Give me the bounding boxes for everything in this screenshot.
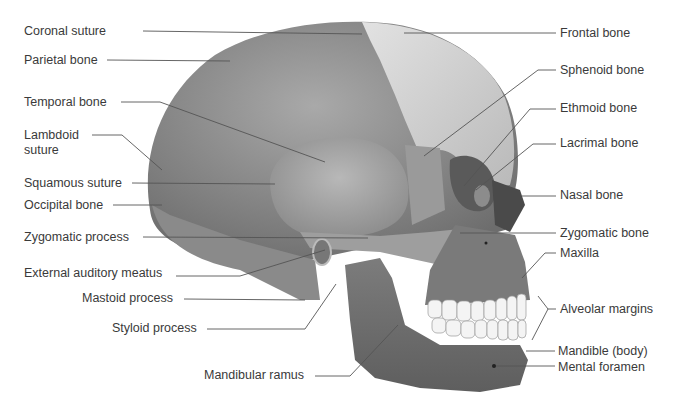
label-occipital-bone: Occipital bone <box>24 198 103 213</box>
ear-canal-shape <box>313 239 331 265</box>
label-coronal-suture: Coronal suture <box>24 24 106 39</box>
mastoid-process-leader-line <box>184 299 305 300</box>
label-mental-foramen: Mental foramen <box>558 360 645 375</box>
skull-diagram: Coronal sutureParietal boneTemporal bone… <box>0 0 676 412</box>
alveolar-margins-leader-line <box>538 296 556 309</box>
lacrimal-shape <box>474 185 490 207</box>
label-ethmoid-bone: Ethmoid bone <box>560 101 637 116</box>
label-zygomatic-process: Zygomatic process <box>24 230 129 245</box>
label-mandible-body: Mandible (body) <box>558 344 648 359</box>
label-temporal-bone: Temporal bone <box>24 95 107 110</box>
label-styloid-process: Styloid process <box>112 321 197 336</box>
label-maxilla: Maxilla <box>560 246 599 261</box>
label-lacrimal-bone: Lacrimal bone <box>560 136 639 151</box>
label-nasal-bone: Nasal bone <box>560 188 623 203</box>
alveolar-margins-2-leader-line <box>532 309 548 340</box>
label-zygomatic-bone: Zygomatic bone <box>560 226 649 241</box>
label-alveolar-margins: Alveolar margins <box>560 302 653 317</box>
label-external-auditory-meatus: External auditory meatus <box>24 266 162 281</box>
label-mastoid-process: Mastoid process <box>82 291 173 306</box>
zygomatic-foramen-dot <box>485 242 488 245</box>
label-parietal-bone: Parietal bone <box>24 53 98 68</box>
label-sphenoid-bone: Sphenoid bone <box>560 63 644 78</box>
label-frontal-bone: Frontal bone <box>560 26 630 41</box>
label-lambdoid-suture: Lambdoidsuture <box>24 128 79 158</box>
mental-foramen-dot <box>492 364 496 368</box>
label-squamous-suture: Squamous suture <box>24 176 122 191</box>
nasal-region <box>492 180 525 232</box>
temporal-bone-shape <box>270 138 408 239</box>
maxilla-leader-line <box>522 253 556 278</box>
label-mandibular-ramus: Mandibular ramus <box>204 368 304 383</box>
